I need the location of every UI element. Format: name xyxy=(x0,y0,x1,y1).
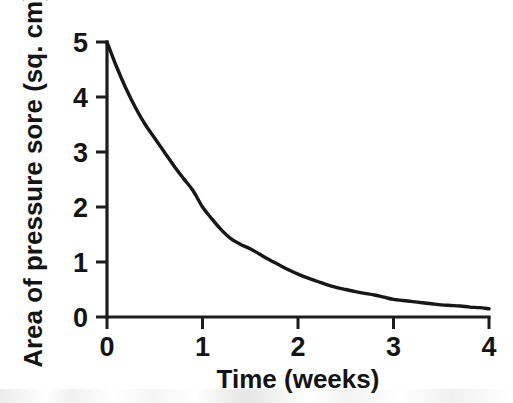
chart-canvas: 012345 01234 Time (weeks) Area of pressu… xyxy=(0,0,513,403)
x-tick-label-3: 3 xyxy=(386,332,401,362)
x-axis-title: Time (weeks) xyxy=(217,364,380,394)
y-tick-label-5: 5 xyxy=(73,28,88,58)
y-axis-title: Area of pressure sore (sq. cm) xyxy=(18,0,48,368)
figure-container: 012345 01234 Time (weeks) Area of pressu… xyxy=(0,0,513,403)
x-tick-label-4: 4 xyxy=(481,332,496,362)
y-tick-label-1: 1 xyxy=(73,248,88,278)
x-tick-label-0: 0 xyxy=(99,332,114,362)
x-tick-label-2: 2 xyxy=(290,332,305,362)
y-tick-label-4: 4 xyxy=(73,83,88,113)
x-tick-label-1: 1 xyxy=(195,332,210,362)
y-tick-label-2: 2 xyxy=(73,193,88,223)
y-tick-label-0: 0 xyxy=(73,303,88,333)
y-tick-label-3: 3 xyxy=(73,138,88,168)
